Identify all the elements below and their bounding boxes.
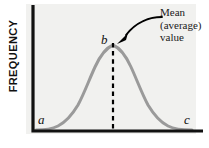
mean-callout-line-1: Mean — [160, 6, 209, 19]
frequency-distribution-figure: FREQUENCY a b c Mean (average) value — [0, 0, 209, 148]
mean-callout-line-3: value — [160, 31, 209, 44]
mean-callout-line-2: (average) — [160, 19, 209, 32]
mean-callout-label: Mean (average) value — [160, 6, 209, 44]
callout-arrowhead — [117, 33, 128, 44]
point-a-label: a — [38, 113, 45, 126]
point-c-label: c — [184, 113, 190, 126]
point-b-label: b — [101, 33, 108, 46]
callout-leader-line — [126, 17, 162, 35]
